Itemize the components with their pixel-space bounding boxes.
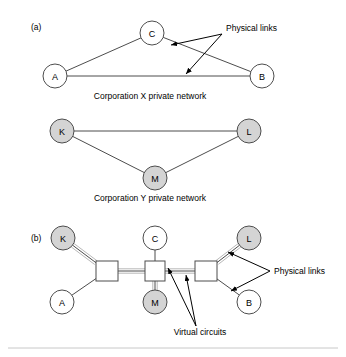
corp-x-caption: Corporation X private network xyxy=(94,91,207,101)
virtual-circuit-line xyxy=(74,243,97,261)
network-node-Lb[interactable]: L xyxy=(237,226,261,250)
network-diagram: ACBKLMKACMLB Physical linksPhysical link… xyxy=(0,0,346,357)
network-node-Bb[interactable]: B xyxy=(237,290,261,314)
virtual-circuits-annotation-leader xyxy=(168,268,196,326)
panel-label-b: (b) xyxy=(31,233,42,243)
physical-link-A-C xyxy=(66,38,141,71)
node-label-Lb: L xyxy=(246,234,251,244)
node-label-Bb: B xyxy=(246,298,252,308)
network-node-A[interactable]: A xyxy=(43,64,67,88)
network-node-B[interactable]: B xyxy=(250,64,274,88)
node-label-A: A xyxy=(52,72,58,82)
network-node-K[interactable]: K xyxy=(50,119,74,143)
corp-y-caption: Corporation Y private network xyxy=(94,193,207,203)
physical-link-C-B xyxy=(163,37,251,71)
node-label-L: L xyxy=(246,127,251,137)
physical-link-K-M xyxy=(73,136,145,172)
virtual-circuit-line xyxy=(71,247,94,265)
node-label-C: C xyxy=(149,29,156,39)
network-node-Mb[interactable]: M xyxy=(143,290,167,314)
node-label-K: K xyxy=(59,127,65,137)
network-node-M[interactable]: M xyxy=(143,166,167,190)
figure-container: ACBKLMKACMLB Physical linksPhysical link… xyxy=(0,0,346,357)
network-node-Ab[interactable]: A xyxy=(50,290,74,314)
physical-links-annotation-a-label: Physical links xyxy=(226,23,277,33)
network-node-Kb[interactable]: K xyxy=(51,226,75,250)
node-label-Ab: A xyxy=(59,298,65,308)
node-label-Kb: K xyxy=(60,234,66,244)
switch-node-S3[interactable] xyxy=(195,261,217,281)
physical-links-annotation-a-leader xyxy=(171,34,222,45)
switch-node-S2[interactable] xyxy=(145,261,165,281)
node-label-Mb: M xyxy=(151,298,159,308)
network-node-Cb[interactable]: C xyxy=(143,226,167,250)
network-node-L[interactable]: L xyxy=(237,119,261,143)
node-label-B: B xyxy=(259,72,265,82)
virtual-circuits-annotation-label: Virtual circuits xyxy=(174,327,227,337)
panel-label-a: (a) xyxy=(31,22,42,32)
physical-link-Lb-S3 xyxy=(217,245,239,262)
virtual-circuits-annotation-leader xyxy=(186,275,196,326)
physical-links-annotation-b-label: Physical links xyxy=(274,266,325,276)
physical-links-annotation-b-leader xyxy=(228,252,270,271)
physical-link-M-L xyxy=(166,136,239,172)
physical-links-annotation-a-leader xyxy=(186,34,222,74)
physical-links-annotation-b-leader xyxy=(231,271,270,291)
node-label-M: M xyxy=(151,174,159,184)
switches-layer xyxy=(96,261,217,281)
network-node-C[interactable]: C xyxy=(140,21,164,45)
physical-link-Bb-S3 xyxy=(217,279,239,295)
switch-node-S1[interactable] xyxy=(96,261,118,281)
physical-link-Kb-S1 xyxy=(73,245,96,263)
node-label-Cb: C xyxy=(152,234,159,244)
physical-link-Ab-S1 xyxy=(72,279,96,296)
